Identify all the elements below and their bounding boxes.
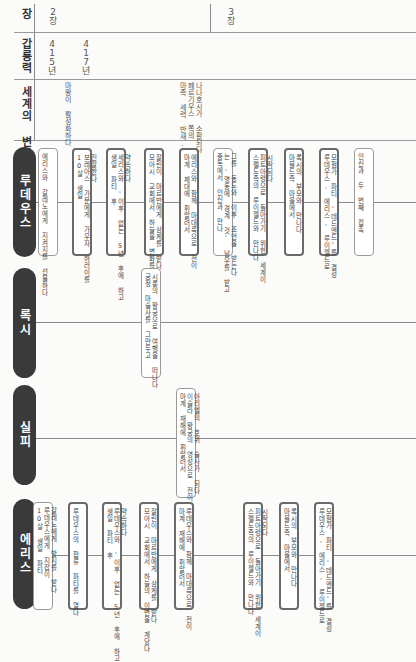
row-divider <box>14 32 416 33</box>
event-text: 그를 동도와 이후 조언을 받는다 는 '명동에 경계 것' 남우를 받고 중독… <box>215 153 236 293</box>
event-box: 갈레노에게 방지를 받다 루데우스에게 지잡이 10살 생일 파티 <box>33 502 53 610</box>
event-box: 시작되다 피트아령으로 돌아가기 위한 세계이 스펠도족의 루이젤드와 만나다 <box>243 502 263 610</box>
event-text: 루데우스와 함께 마대륙으로 전이 마계 재해에 휘말려서 <box>177 508 191 630</box>
event-text: 시롱의 왕궁으로 여행을 떠나다 궁정 마술사를 그만두고 <box>143 273 157 388</box>
year-415: 415년 <box>48 40 56 76</box>
event-box: 잘린이 마르반에게 삼케를 받다 모아시 교회에서 하늘의 이변을 계당다 <box>139 502 159 610</box>
event-box: 약속하다 루데우스와 '이후 없는 5년 후에 하고 생일 파티 후 <box>102 502 122 610</box>
event-text: 약속하다 세리스와 '이후 없는 5년 후에 하고 생일 파티 후 <box>109 154 130 301</box>
event-box: 록시의 부모와 만나다 마블드족 마을에서 <box>279 502 299 610</box>
calendar-label: 갑룡력 <box>0 38 33 74</box>
event-text: 록시의 부모와 만나다 마블드족 마을에서 <box>282 508 296 587</box>
event-text: 인신과 두 번째 접촉 <box>356 153 363 233</box>
chapter-2: 2장 <box>48 8 58 26</box>
event-box: 시작되다 피트아령으로 돌아가기 위한 세계이 스펠도족의 루이젤드와 만나다 <box>248 148 268 256</box>
event-box: 잘린이 마르반에게 삼케를 받다 모아시 교회에서 하늘을 변화를 계당다 <box>144 148 164 256</box>
chapter-3: 3장 <box>226 8 236 26</box>
event-box: 약속하다 세리스와 '이후 없는 5년 후에 하고 생일 파티 후 <box>106 148 126 256</box>
event-text: 모험가 파티 '데드엔드'를 결성 루데우스, 에리스, 루이젤드로 <box>317 508 331 632</box>
year-417: 417년 <box>82 40 90 76</box>
event-text: 시작되다 피트아령으로 돌아가기 위한 세계이 스펠도족의 루이젤드와 만나다 <box>251 154 272 283</box>
event-box: 록시의 부모와 만나다 마블드족 마을에서 <box>284 148 304 256</box>
event-text: 시작되다 피트아령으로 돌아가기 위한 세계이 스펠도족의 루이젤드와 만나다 <box>246 508 267 637</box>
event-box: 에리스와 갈레노에게 지켜지를 선물하다 <box>38 148 58 256</box>
event-box: 그를 동도와 이후 조언을 받는다 는 '명동에 경계 것' 남우를 받고 중독… <box>213 148 233 256</box>
character-label-sylphy: 실피 <box>13 385 36 485</box>
event-box: 루데우스의 합류 파티를 열다 <box>68 502 88 610</box>
timeline-track-eris <box>36 555 416 556</box>
event-box: 모험가 파티 '데드엔드'를 결성 루데우스, 에리스, 루이젤드로 <box>319 148 339 256</box>
world-event: 나나호시가 소환되다 페르기우스 쪽의 마족 세력 반새. <box>178 82 202 153</box>
event-box: 진잘한다 보레아스 가문에게 가우자 하러이를 10살 생일 <box>72 148 92 256</box>
character-label-roxy: 록시 <box>13 268 36 378</box>
world-event: 마왕이 활성화하다 <box>63 82 71 146</box>
timeline-track-roxy <box>36 322 416 323</box>
chapter-divider <box>210 4 211 32</box>
event-box: 아리엘의 호위 술사가 되다 이슬라 왕궁의 영성으로 전이 마계 재해에 휘말… <box>176 388 196 498</box>
event-text: 에리스와 함께 마대륙으로 전이 마계 제대에 휘말려서 <box>182 154 196 269</box>
event-text: 에리스와 갈레노에게 지켜지를 선물하다 <box>40 153 47 296</box>
event-text: 아리엘의 호위 술사가 되다 이슬라 왕궁의 영성으로 전이 마계 재해에 휘말… <box>178 393 199 501</box>
event-text: 록시의 부모와 만나다 마블드족 마을에서 <box>287 154 301 233</box>
event-box: 모험가 파티 '데드엔드'를 결성 루데우스, 에리스, 루이젤드로 <box>314 502 334 610</box>
row-divider <box>14 79 416 80</box>
chapter-label: 장 <box>0 8 33 20</box>
row-divider <box>14 140 416 141</box>
timeline-track-sylphy <box>36 438 416 439</box>
event-text: 약속하다 루데우스와 '이후 없는 5년 후에 하고 생일 파티 후 <box>105 508 126 662</box>
event-text: 잘린이 마르반에게 삼케를 받다 모아시 교회에서 하늘의 이변을 계당다 <box>142 508 156 652</box>
event-text: 진잘한다 보레아스 가문에게 가우자 하러이를 10살 생일 <box>75 154 96 283</box>
header-divider <box>34 4 35 140</box>
event-box: 루데우스와 함께 마대륙으로 전이 마계 재해에 휘말려서 <box>174 502 194 610</box>
event-box: 시롱의 왕궁으로 여행을 떠나다 궁정 마술사를 그만두고 <box>141 268 161 378</box>
event-text: 모험가 파티 '데드엔드'를 결성 루데우스, 에리스, 루이젤드로 <box>322 154 336 278</box>
event-text: 갈레노에게 방지를 받다 루데우스에게 지잡이 10살 생일 파티 <box>35 507 56 593</box>
character-label-rudeus: 루데우스 <box>13 147 36 257</box>
event-box: 에리스와 함께 마대륙으로 전이 마계 제대에 휘말려서 <box>179 148 199 256</box>
event-text: 루데우스의 합류 파티를 열다 <box>71 508 78 616</box>
event-box: 인신과 두 번째 접촉 <box>354 148 374 256</box>
